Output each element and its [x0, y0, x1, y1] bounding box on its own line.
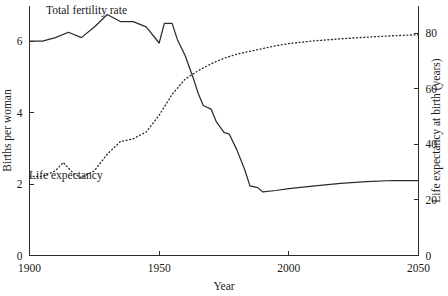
y-tick-label-0: 0	[17, 250, 23, 262]
x-axis-title: Year	[213, 280, 234, 292]
series-annotations: Total fertility rateLife expectancy	[29, 4, 127, 181]
y2-axis-title: Life expectancy at birth (years)	[430, 58, 443, 202]
plot-frame	[30, 6, 419, 256]
series-life-expectancy	[30, 35, 419, 178]
annotation-life-expectancy: Life expectancy	[29, 169, 103, 182]
chart-canvas: 19001950200020500246020406080 YearBirths…	[0, 0, 448, 296]
x-tick-label-2000: 2000	[277, 262, 300, 274]
x-tick-label-1900: 1900	[18, 262, 41, 274]
annotation-total-fertility-rate: Total fertility rate	[46, 4, 127, 17]
y-tick-label-4: 4	[17, 107, 23, 119]
y-axis-title: Births per woman	[1, 89, 14, 172]
axis-ticks	[30, 33, 419, 255]
data-series	[30, 14, 419, 192]
axis-tick-labels: 19001950200020500246020406080	[17, 27, 438, 273]
y-tick-label-2: 2	[17, 178, 23, 190]
y2-tick-label-0: 0	[426, 250, 432, 262]
plot-border	[30, 6, 419, 256]
x-tick-label-1950: 1950	[148, 262, 171, 274]
x-tick-label-2050: 2050	[407, 262, 430, 274]
y2-tick-label-80: 80	[426, 27, 438, 39]
y-tick-label-6: 6	[17, 35, 23, 47]
fertility-life-expectancy-chart: 19001950200020500246020406080 YearBirths…	[0, 0, 448, 296]
series-total-fertility-rate	[30, 14, 419, 192]
